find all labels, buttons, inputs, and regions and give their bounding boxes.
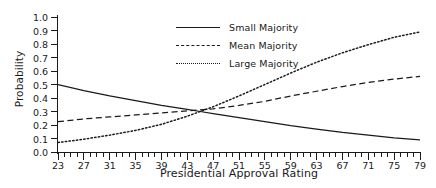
x-tick-mark-major: [394, 152, 395, 160]
x-tick-mark-minor: [154, 152, 155, 157]
legend-item-label: Mean Majority: [229, 40, 298, 51]
legend-item-label: Large Majority: [229, 58, 299, 69]
x-tick-mark-minor: [96, 152, 97, 157]
x-tick-mark-minor: [206, 152, 207, 157]
y-tick-label: 0.2: [2, 120, 48, 131]
x-tick-mark-minor: [258, 152, 259, 157]
x-tick-mark-major: [420, 152, 421, 160]
y-tick-mark: [51, 98, 58, 99]
x-tick-mark-minor: [303, 152, 304, 157]
x-tick-mark-minor: [348, 152, 349, 157]
x-tick-mark-minor: [355, 152, 356, 157]
y-tick-label: 0.4: [2, 93, 48, 104]
x-tick-mark-minor: [374, 152, 375, 157]
x-tick-mark-minor: [297, 152, 298, 157]
x-tick-mark-major: [83, 152, 84, 160]
x-axis-title: Presidential Approval Rating: [58, 167, 420, 180]
x-tick-mark-minor: [407, 152, 408, 157]
x-tick-mark-major: [135, 152, 136, 160]
chart-figure: Probability 0.00.10.20.30.40.50.60.70.80…: [0, 0, 436, 188]
x-tick-mark-minor: [232, 152, 233, 157]
chart-legend: Small MajorityMean MajorityLarge Majorit…: [176, 20, 326, 74]
x-tick-mark-major: [239, 152, 240, 160]
x-tick-mark-major: [213, 152, 214, 160]
series-line: [58, 85, 420, 140]
series-line: [58, 76, 420, 121]
x-tick-mark-major: [109, 152, 110, 160]
legend-item-label: Small Majority: [229, 22, 298, 33]
x-tick-mark-major: [264, 152, 265, 160]
x-tick-mark-major: [342, 152, 343, 160]
y-tick-mark: [51, 125, 58, 126]
x-tick-mark-minor: [400, 152, 401, 157]
x-tick-mark-minor: [122, 152, 123, 157]
legend-item: Large Majority: [176, 56, 326, 71]
x-tick-mark-minor: [329, 152, 330, 157]
x-tick-mark-minor: [142, 152, 143, 157]
x-tick-mark-minor: [251, 152, 252, 157]
x-tick-mark-minor: [277, 152, 278, 157]
y-axis-tick-labels: 0.00.10.20.30.40.50.60.70.80.91.0: [0, 0, 48, 188]
y-tick-label: 0.9: [2, 25, 48, 36]
x-tick-mark-minor: [335, 152, 336, 157]
y-tick-mark: [51, 30, 58, 31]
x-tick-mark-minor: [167, 152, 168, 157]
x-tick-mark-major: [161, 152, 162, 160]
y-tick-label: 0.1: [2, 133, 48, 144]
legend-line-key-solid-icon: [176, 23, 220, 33]
legend-item: Mean Majority: [176, 38, 326, 53]
x-tick-mark-major: [316, 152, 317, 160]
x-tick-mark-minor: [103, 152, 104, 157]
legend-line-key-dashed-icon: [176, 41, 220, 51]
x-tick-mark-minor: [70, 152, 71, 157]
y-tick-label: 0.8: [2, 39, 48, 50]
x-tick-mark-minor: [193, 152, 194, 157]
x-tick-mark-minor: [245, 152, 246, 157]
x-tick-mark-minor: [116, 152, 117, 157]
legend-item: Small Majority: [176, 20, 326, 35]
y-tick-mark: [51, 84, 58, 85]
x-tick-mark-minor: [200, 152, 201, 157]
x-tick-mark-minor: [310, 152, 311, 157]
y-tick-label: 0.3: [2, 106, 48, 117]
y-tick-mark: [51, 152, 58, 153]
y-tick-label: 0.0: [2, 147, 48, 158]
y-tick-mark: [51, 57, 58, 58]
x-tick-mark-minor: [381, 152, 382, 157]
x-tick-mark-minor: [226, 152, 227, 157]
x-tick-mark-minor: [271, 152, 272, 157]
x-tick-mark-minor: [148, 152, 149, 157]
y-tick-mark: [51, 17, 58, 18]
y-tick-mark: [51, 44, 58, 45]
y-tick-label: 0.6: [2, 66, 48, 77]
x-tick-mark-minor: [77, 152, 78, 157]
y-tick-mark: [51, 71, 58, 72]
x-tick-mark-minor: [361, 152, 362, 157]
x-tick-mark-minor: [180, 152, 181, 157]
x-tick-mark-minor: [323, 152, 324, 157]
x-tick-mark-minor: [387, 152, 388, 157]
y-tick-label: 1.0: [2, 12, 48, 23]
y-tick-label: 0.7: [2, 52, 48, 63]
x-tick-mark-major: [368, 152, 369, 160]
x-tick-mark-minor: [413, 152, 414, 157]
x-tick-mark-minor: [219, 152, 220, 157]
x-tick-mark-major: [290, 152, 291, 160]
x-tick-mark-minor: [64, 152, 65, 157]
x-tick-mark-minor: [129, 152, 130, 157]
x-tick-mark-major: [58, 152, 59, 160]
x-tick-mark-minor: [174, 152, 175, 157]
y-tick-mark: [51, 111, 58, 112]
legend-line-key-dotted-icon: [176, 59, 220, 69]
x-tick-mark-minor: [90, 152, 91, 157]
y-tick-label: 0.5: [2, 79, 48, 90]
y-tick-mark: [51, 138, 58, 139]
x-tick-mark-major: [187, 152, 188, 160]
x-tick-mark-minor: [284, 152, 285, 157]
